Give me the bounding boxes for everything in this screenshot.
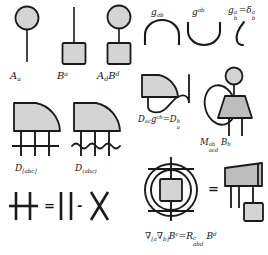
label-g-sup-ab: gab	[192, 8, 205, 17]
figure-B-sup-a	[53, 4, 95, 66]
label-contraction-equation: Dacgcb=Dba	[138, 115, 181, 125]
figure-A-sub-a	[6, 4, 48, 66]
label-curvature-equation: ∇[a∇b]Bc=RcabdBd	[145, 232, 217, 242]
glyph-metric-cup-arc	[184, 20, 224, 46]
label-g-sub-ab: gab	[151, 8, 164, 18]
label-D-antisymmetric: D[abc]	[15, 164, 37, 174]
figure-curvature-rhs	[222, 160, 268, 226]
identity-minus-sign: -	[77, 199, 82, 212]
identity-equals-sign: =	[44, 199, 55, 212]
penrose-diagram-canvas: Aa Ba AdBd gab gab gab=δab	[0, 0, 268, 255]
label-D-symmetric: D(abc)	[75, 164, 97, 174]
glyph-metric-cap-arc	[141, 20, 183, 46]
label-A-sub-a: Aa	[10, 71, 21, 82]
figure-D-antisymmetric	[10, 98, 66, 160]
label-kronecker-equation: gab=δab	[228, 6, 257, 15]
figure-D-symmetric	[70, 98, 126, 160]
figure-contraction-hook	[139, 72, 199, 116]
glyph-kronecker-hook-line	[232, 21, 254, 47]
figure-Ad-Bd	[98, 4, 140, 66]
figure-curvature-lhs	[142, 155, 204, 227]
label-B-sup-a: Ba	[57, 71, 68, 81]
label-Ad-Bd: AdBd	[97, 71, 120, 82]
figure-multi-index-tensor	[198, 66, 258, 138]
curvature-equals-sign: =	[208, 182, 219, 195]
figure-antisymmetrizer-identity	[8, 190, 112, 224]
label-multi-index-tensor: MabacdBb	[200, 138, 231, 148]
